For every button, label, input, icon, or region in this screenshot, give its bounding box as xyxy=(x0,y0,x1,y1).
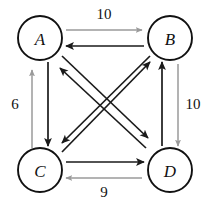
edge-group-top xyxy=(66,30,144,46)
edge-a-to-d[interactable] xyxy=(62,56,148,138)
node-d[interactable]: D xyxy=(148,148,192,192)
node-b[interactable]: B xyxy=(148,16,192,60)
edge-group-left xyxy=(32,62,48,148)
edge-group-right xyxy=(162,62,178,146)
weight-label-left: 6 xyxy=(11,96,19,112)
node-a-label: A xyxy=(34,30,46,49)
edge-group-diagonals xyxy=(60,56,150,152)
weight-label-bottom: 9 xyxy=(100,184,108,200)
edge-group-bottom xyxy=(66,162,144,178)
weight-label-right: 10 xyxy=(186,96,201,112)
graph-canvas: A B C D 10 6 10 9 xyxy=(0,0,210,208)
node-c[interactable]: C xyxy=(18,148,62,192)
graph-figure: A B C D 10 6 10 9 xyxy=(0,0,210,208)
node-b-label: B xyxy=(165,30,176,49)
node-c-label: C xyxy=(34,162,46,181)
weight-label-top: 10 xyxy=(97,6,112,22)
node-a[interactable]: A xyxy=(18,16,62,60)
node-d-label: D xyxy=(163,162,177,181)
